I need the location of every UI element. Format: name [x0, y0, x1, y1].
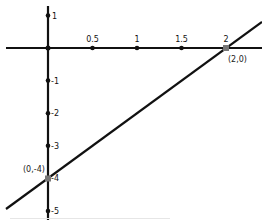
- intercept-y: (0,-4): [23, 165, 51, 182]
- y-tick-label: -4: [51, 174, 59, 183]
- point-label-y-intercept: (0,-4): [23, 165, 45, 174]
- x-tick-label: 1.5: [175, 35, 188, 44]
- y-tick-label: -2: [51, 109, 59, 118]
- y-tick-label: -3: [51, 142, 59, 151]
- x-tick-1: 1: [134, 35, 139, 50]
- point-label-x-intercept: (2,0): [228, 55, 247, 64]
- x-tick-label: 0.5: [86, 35, 99, 44]
- y-tick-neg4: -4: [51, 174, 59, 183]
- y-tick-label: -5: [51, 207, 59, 216]
- x-tick-label: 1: [134, 35, 139, 44]
- origin-point: [46, 46, 51, 51]
- y-tick-label: -1: [51, 77, 59, 86]
- y-tick-label: 1: [52, 12, 57, 21]
- x-tick-label: 2: [223, 35, 228, 44]
- coordinate-plane: 0.5 1 1.5 2 1 -1 -2 -3 -4 -5 (0,-4) (: [0, 0, 262, 220]
- x-tick-2: 2: [223, 35, 228, 44]
